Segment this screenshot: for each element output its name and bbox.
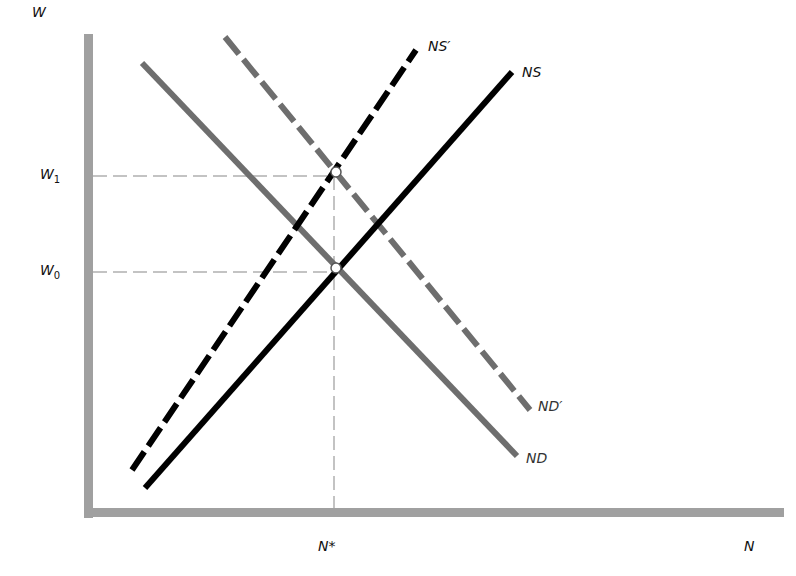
y-axis-label: W bbox=[32, 4, 46, 20]
w0-label-text: W bbox=[40, 262, 54, 278]
ns-prime-label: NS′ bbox=[428, 38, 451, 54]
w0-label: W0 bbox=[40, 262, 60, 281]
y-axis bbox=[84, 34, 93, 518]
w1-label-sub: 1 bbox=[54, 174, 60, 185]
ns-curve bbox=[145, 72, 512, 488]
w1-label-text: W bbox=[40, 166, 54, 182]
x-axis bbox=[84, 508, 784, 517]
ns-label: NS bbox=[522, 64, 541, 80]
equilibrium-initial-point bbox=[331, 263, 341, 273]
equilibrium-new-point bbox=[331, 167, 341, 177]
nd-prime-label: ND′ bbox=[538, 398, 562, 414]
labor-market-chart bbox=[0, 0, 796, 576]
w0-label-sub: 0 bbox=[54, 270, 60, 281]
w1-label: W1 bbox=[40, 166, 60, 185]
x-axis-label: N bbox=[744, 538, 754, 554]
ns-prime-curve bbox=[132, 50, 416, 470]
nd-curve bbox=[142, 63, 517, 456]
n-star-label: N* bbox=[318, 538, 335, 554]
nd-label: ND bbox=[526, 450, 547, 466]
